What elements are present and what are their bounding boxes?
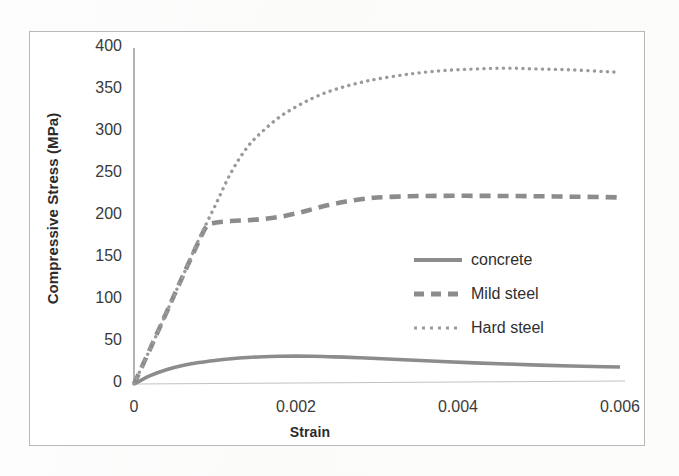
- y-tick-label: 50: [76, 331, 122, 349]
- x-tick-label: 0.004: [418, 398, 498, 416]
- figure-page: 05010015020025030035040000.0020.0040.006…: [0, 0, 679, 476]
- y-tick-label: 150: [76, 247, 122, 265]
- legend-item-label: Mild steel: [471, 285, 539, 303]
- chart-legend: concreteMild steelHard steel: [414, 243, 604, 345]
- legend-item[interactable]: Hard steel: [414, 311, 604, 345]
- y-tick-label: 100: [76, 289, 122, 307]
- y-axis-title: Compressive Stress (MPa): [44, 94, 61, 324]
- legend-swatch-dotted-icon: [414, 322, 462, 334]
- y-tick-label: 300: [76, 121, 122, 139]
- y-tick-label: 250: [76, 163, 122, 181]
- legend-item-label: Hard steel: [471, 319, 544, 337]
- legend-item[interactable]: concrete: [414, 243, 604, 277]
- legend-item-label: concrete: [471, 251, 532, 269]
- x-tick-label: 0.002: [256, 398, 336, 416]
- legend-swatch-dashed-icon: [414, 288, 462, 300]
- y-tick-label: 0: [76, 373, 122, 391]
- legend-swatch-solid-icon: [414, 254, 462, 266]
- x-tick-label: 0: [94, 398, 174, 416]
- x-axis-title: Strain: [250, 424, 370, 440]
- x-tick-label: 0.006: [580, 398, 660, 416]
- legend-item[interactable]: Mild steel: [414, 277, 604, 311]
- y-tick-label: 200: [76, 205, 122, 223]
- y-tick-label: 400: [76, 37, 122, 55]
- y-tick-label: 350: [76, 79, 122, 97]
